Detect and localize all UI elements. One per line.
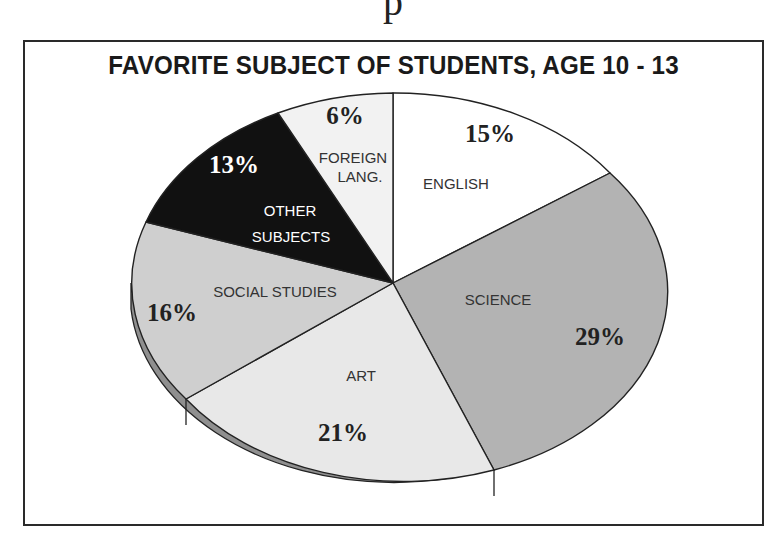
science-label: SCIENCE (465, 291, 532, 308)
art-percent: 21% (318, 419, 368, 446)
social-studies-percent: 16% (147, 299, 197, 326)
art-label: ART (346, 367, 376, 384)
other-subjects-label-line1: OTHER (264, 202, 317, 219)
pie-chart: 15% ENGLISH SCIENCE 29% ART 21% SOCIAL S… (0, 0, 773, 541)
science-percent: 29% (575, 323, 625, 350)
other-subjects-percent: 13% (209, 151, 259, 178)
foreign-lang-label-line1: FOREIGN (319, 149, 387, 166)
english-percent: 15% (465, 120, 515, 147)
foreign-lang-label-line2: LANG. (337, 168, 382, 185)
foreign-lang-percent: 6% (326, 102, 364, 129)
other-subjects-label-line2: SUBJECTS (252, 228, 330, 245)
social-studies-label: SOCIAL STUDIES (213, 283, 337, 300)
english-label: ENGLISH (423, 175, 489, 192)
